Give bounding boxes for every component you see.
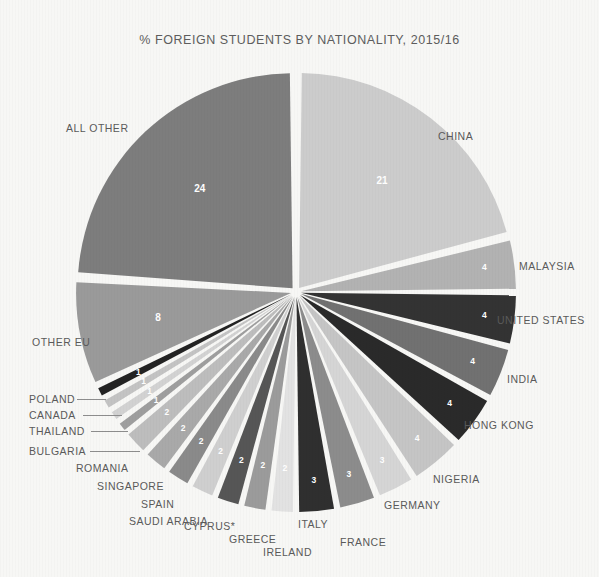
pie-label-greece: GREECE <box>229 534 276 545</box>
pie-label-bulgaria: BULGARIA <box>29 446 86 457</box>
pie-slice-value: 2 <box>239 455 244 465</box>
pie-slice-value: 3 <box>380 455 385 465</box>
pie-slice-value: 4 <box>482 262 487 272</box>
pie-label-thailand: THAILAND <box>29 426 85 437</box>
pie-slice-value: 2 <box>283 463 288 473</box>
leader-line-bulgaria <box>90 451 140 452</box>
pie-label-singapore: SINGAPORE <box>97 481 164 492</box>
pie-label-canada: CANADA <box>29 410 76 421</box>
pie-slice-value: 2 <box>199 436 204 446</box>
pie-label-china: CHINA <box>438 131 473 142</box>
pie-slice-value: 4 <box>470 356 475 366</box>
pie-label-malaysia: MALAYSIA <box>519 261 575 272</box>
pie-slice-value: 1 <box>141 376 146 386</box>
pie-label-spain: SPAIN <box>141 499 174 510</box>
pie-label-india: INDIA <box>507 374 538 385</box>
leader-line-thailand <box>91 431 128 432</box>
pie-label-hong-kong: HONG KONG <box>464 420 534 431</box>
pie-chart: 214444433322222221111824 <box>0 0 599 577</box>
pie-slice-value: 2 <box>218 446 223 456</box>
pie-label-united-states: UNITED STATES <box>497 315 585 326</box>
pie-label-france: FRANCE <box>340 537 386 548</box>
leader-line-canada <box>83 415 122 416</box>
pie-slice-value: 2 <box>260 460 265 470</box>
pie-slice-value: 21 <box>377 175 389 186</box>
pie-slice-value: 1 <box>136 367 141 377</box>
leader-line-poland <box>77 399 106 400</box>
pie-slice-value: 24 <box>194 183 206 194</box>
pie-slice-value: 2 <box>165 407 170 417</box>
pie-label-other-eu: OTHER EU <box>32 337 90 348</box>
pie-label-romania: ROMANIA <box>76 463 129 474</box>
pie-label-saudi-arabia: SAUDI ARABIA <box>129 516 208 527</box>
pie-slice-value: 3 <box>312 475 317 485</box>
pie-slice-value: 4 <box>482 310 487 320</box>
pie-slice-value: 8 <box>155 312 161 323</box>
pie-slice-value: 4 <box>415 433 420 443</box>
pie-slice-value: 2 <box>181 423 186 433</box>
pie-label-ireland: IRELAND <box>263 547 312 558</box>
pie-label-all-other: ALL OTHER <box>66 123 128 134</box>
pie-slice-value: 3 <box>347 469 352 479</box>
pie-slice-value: 1 <box>154 395 159 405</box>
pie-label-germany: GERMANY <box>384 500 441 511</box>
pie-slice-value: 1 <box>147 386 152 396</box>
pie-label-poland: POLAND <box>29 394 75 405</box>
pie-slice[interactable] <box>78 73 292 288</box>
pie-label-italy: ITALY <box>298 519 328 530</box>
pie-label-nigeria: NIGERIA <box>433 474 480 485</box>
pie-slice-value: 4 <box>447 398 452 408</box>
